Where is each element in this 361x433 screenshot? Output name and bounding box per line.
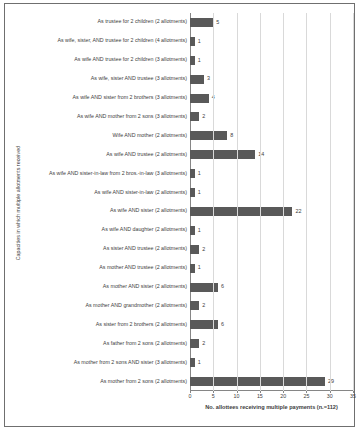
gridline <box>260 13 261 391</box>
bar-row: As mother from 2 sons AND sister (3 allo… <box>190 353 353 372</box>
bar-row: As sister from 2 brothers (2 allotments)… <box>190 315 353 334</box>
bar-row: As wife AND mother from 2 sons (3 allotm… <box>190 108 353 127</box>
gridline <box>306 13 307 391</box>
category-label: As father from 2 sons (2 allotments) <box>103 341 187 346</box>
gridline <box>213 13 214 391</box>
bar-row: As wife, sister, AND trustee for 2 child… <box>190 32 353 51</box>
bar <box>190 94 209 103</box>
category-label: As mother AND sister (2 allotments) <box>103 284 187 289</box>
tick-label: 35 <box>350 393 356 399</box>
bar-row: As wife AND trustee for 2 children (3 al… <box>190 51 353 70</box>
category-label: As wife AND daughter (2 allotments) <box>102 228 187 233</box>
tick-label: 30 <box>327 393 333 399</box>
bar <box>190 245 199 254</box>
gridline <box>283 13 284 391</box>
bar <box>190 131 227 140</box>
bar <box>190 169 195 178</box>
chart-figure: Capacities in which multiple allotments … <box>4 3 355 427</box>
bar-value-label: 5 <box>216 20 219 25</box>
bar <box>190 37 195 46</box>
category-label: As wife AND trustee for 2 children (3 al… <box>74 58 187 63</box>
bar-rows: As trustee for 2 children (2 allotments)… <box>190 13 353 391</box>
category-label: As wife AND sister from 2 brothers (3 al… <box>72 95 187 100</box>
bar-row: As mother AND grandmother (2 allotments)… <box>190 297 353 316</box>
bar-value-label: 1 <box>198 360 201 365</box>
bar-value-label: 1 <box>198 58 201 63</box>
bar-value-label: 1 <box>198 171 201 176</box>
category-label: As mother from 2 sons AND sister (3 allo… <box>74 360 187 365</box>
category-label: As wife, sister, AND trustee for 2 child… <box>57 39 187 44</box>
bar-value-label: 1 <box>198 265 201 270</box>
bar-value-label: 2 <box>202 114 205 119</box>
chart-plot-container: Capacities in which multiple allotments … <box>5 4 354 426</box>
bar <box>190 188 195 197</box>
tick-label: 25 <box>303 393 309 399</box>
category-label: As sister AND trustee (2 allotments) <box>103 247 187 252</box>
tick-label: 20 <box>280 393 286 399</box>
category-label: As wife AND mother from 2 sons (3 allotm… <box>77 114 187 119</box>
category-label: As mother AND trustee (2 allotments) <box>99 265 187 270</box>
category-label: As wife, sister AND trustee (3 allotment… <box>91 76 187 81</box>
gridline <box>353 13 354 391</box>
bar-row: As sister AND trustee (2 allotments)2 <box>190 240 353 259</box>
bar <box>190 18 213 27</box>
category-label: As wife AND sister-in-law (2 allotments) <box>94 190 187 195</box>
bar <box>190 56 195 65</box>
bar <box>190 226 195 235</box>
category-label: As mother AND grandmother (2 allotments) <box>85 303 187 308</box>
bar <box>190 264 195 273</box>
bar-value-label: 2 <box>202 341 205 346</box>
category-label: As wife AND trustee (2 allotments) <box>106 152 187 157</box>
bar-value-label: 1 <box>198 228 201 233</box>
bar-row: As wife AND trustee (2 allotments)14 <box>190 145 353 164</box>
bar-value-label: 2 <box>202 247 205 252</box>
bar-row: As wife AND sister (2 allotments)22 <box>190 202 353 221</box>
category-label: Wife AND mother (2 allotments) <box>113 133 187 138</box>
bar <box>190 339 199 348</box>
category-label: As wife AND sister-in-law from 2 bros.-i… <box>49 171 187 176</box>
bar <box>190 112 199 121</box>
category-label: As trustee for 2 children (2 allotments) <box>98 20 188 25</box>
bar <box>190 377 325 386</box>
bar-value-label: 3 <box>207 76 210 81</box>
bar-value-label: 6 <box>221 284 224 289</box>
bar-value-label: 6 <box>221 322 224 327</box>
x-axis-ticks: 05101520253035 <box>190 391 353 401</box>
x-axis-title: No. allottees receiving multiple payment… <box>190 404 353 410</box>
bar-row: As mother AND trustee (2 allotments)1 <box>190 259 353 278</box>
bar <box>190 207 292 216</box>
bar-row: As trustee for 2 children (2 allotments)… <box>190 13 353 32</box>
bar-row: As father from 2 sons (2 allotments)2 <box>190 334 353 353</box>
bar <box>190 150 255 159</box>
bar <box>190 358 195 367</box>
plot-area: As trustee for 2 children (2 allotments)… <box>190 13 353 391</box>
bar-row: As wife AND sister-in-law (2 allotments)… <box>190 183 353 202</box>
tick-label: 0 <box>189 393 192 399</box>
gridline <box>237 13 238 391</box>
bar-row: As mother from 2 sons (2 allotments)29 <box>190 372 353 391</box>
bar-row: Wife AND mother (2 allotments)8 <box>190 126 353 145</box>
bar-value-label: 1 <box>198 39 201 44</box>
y-axis-title: Capacities in which multiple allotments … <box>15 93 21 313</box>
bar-row: As wife, sister AND trustee (3 allotment… <box>190 70 353 89</box>
tick-label: 10 <box>234 393 240 399</box>
tick-label: 15 <box>257 393 263 399</box>
bar <box>190 75 204 84</box>
category-label: As mother from 2 sons (2 allotments) <box>100 379 187 384</box>
bar-value-label: 2 <box>202 303 205 308</box>
bar-value-label: 1 <box>198 190 201 195</box>
bar-row: As wife AND sister from 2 brothers (3 al… <box>190 89 353 108</box>
bar-row: As wife AND sister-in-law from 2 bros.-i… <box>190 164 353 183</box>
bar-value-label: 22 <box>295 209 301 214</box>
tick-label: 5 <box>212 393 215 399</box>
category-label: As sister from 2 brothers (2 allotments) <box>96 322 187 327</box>
category-label: As wife AND sister (2 allotments) <box>110 209 187 214</box>
bar <box>190 301 199 310</box>
bar-value-label: 8 <box>230 133 233 138</box>
bar-row: As mother AND sister (2 allotments)6 <box>190 278 353 297</box>
bar-row: As wife AND daughter (2 allotments)1 <box>190 221 353 240</box>
gridline <box>330 13 331 391</box>
